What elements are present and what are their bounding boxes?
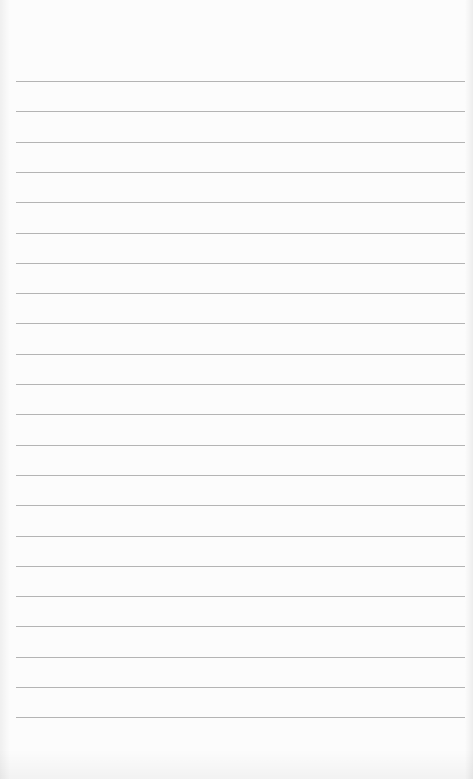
- ruled-line: [16, 263, 465, 264]
- ruled-line: [16, 596, 465, 597]
- ruled-line: [16, 142, 465, 143]
- ruled-line: [16, 172, 465, 173]
- ruled-line: [16, 475, 465, 476]
- ruled-line: [16, 566, 465, 567]
- ruled-line: [16, 81, 465, 82]
- ruled-line: [16, 354, 465, 355]
- ruled-line: [16, 202, 465, 203]
- ruled-line: [16, 657, 465, 658]
- lined-paper-sheet: [0, 0, 473, 779]
- ruled-line: [16, 384, 465, 385]
- ruled-line: [16, 293, 465, 294]
- ruled-line: [16, 717, 465, 718]
- ruled-line: [16, 233, 465, 234]
- ruled-line: [16, 323, 465, 324]
- ruled-line: [16, 414, 465, 415]
- ruled-line: [16, 111, 465, 112]
- ruled-line: [16, 626, 465, 627]
- ruled-line: [16, 445, 465, 446]
- ruled-line: [16, 687, 465, 688]
- ruled-line: [16, 536, 465, 537]
- ruled-line: [16, 505, 465, 506]
